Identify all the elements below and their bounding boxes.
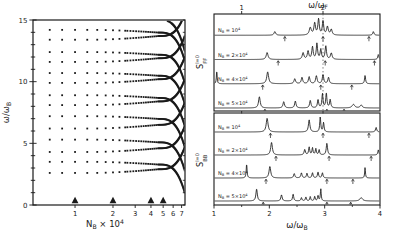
data-dot	[155, 101, 157, 103]
data-dot	[61, 104, 63, 106]
data-dot	[153, 31, 155, 33]
data-dot	[74, 128, 76, 130]
data-dot	[153, 75, 155, 77]
data-dot	[130, 37, 132, 39]
data-dot	[147, 96, 149, 98]
data-dot	[61, 94, 63, 96]
data-dot	[49, 94, 51, 96]
y-tick-label: 0	[23, 202, 27, 210]
data-dot	[74, 39, 76, 41]
data-dot	[149, 141, 151, 143]
data-dot	[124, 116, 126, 118]
data-dot	[143, 59, 145, 61]
data-dot	[124, 171, 126, 173]
data-dot	[143, 53, 145, 55]
data-dot	[112, 95, 114, 97]
data-dot	[149, 117, 151, 119]
data-dot	[74, 139, 76, 141]
data-dot	[49, 72, 51, 74]
data-dot	[96, 82, 98, 84]
top-axis-label: ω/ωF	[308, 1, 327, 11]
resonance-arrow	[261, 85, 264, 90]
resonance-arrow	[328, 156, 331, 161]
data-dot	[140, 170, 142, 172]
data-dot	[132, 30, 134, 32]
data-dot	[130, 116, 132, 118]
data-dot	[145, 125, 147, 127]
data-dot	[151, 169, 153, 171]
x-tick-label: 4	[149, 210, 153, 218]
data-dot	[135, 74, 137, 76]
sff-curves: NB = 104NB = 2×104NB = 4×104NB = 5×104	[214, 18, 379, 114]
data-dot	[151, 58, 153, 60]
nb-marker-triangle	[148, 197, 155, 203]
data-dot	[96, 29, 98, 31]
data-dot	[105, 139, 107, 141]
data-dot	[49, 82, 51, 84]
data-dot	[151, 124, 153, 126]
data-dot	[149, 169, 151, 171]
data-dot	[153, 148, 155, 150]
data-dot	[151, 163, 153, 165]
data-dot	[149, 36, 151, 38]
data-dot	[61, 51, 63, 53]
data-dot	[149, 53, 151, 55]
data-dot	[140, 31, 142, 33]
data-dot	[135, 80, 137, 82]
data-dot	[147, 79, 149, 81]
data-dot	[145, 74, 147, 76]
data-dot	[151, 141, 153, 143]
data-dot	[74, 94, 76, 96]
data-dot	[151, 148, 153, 150]
data-dot	[132, 126, 134, 128]
data-dot	[61, 39, 63, 41]
data-dot	[126, 73, 128, 75]
resonance-arrow	[350, 85, 353, 90]
data-dot	[126, 103, 128, 105]
data-dot	[132, 96, 134, 98]
data-dot	[132, 149, 134, 151]
top-tick-label: 1	[240, 4, 244, 12]
data-dot	[145, 58, 147, 60]
data-dot	[140, 96, 142, 98]
resonance-arrow	[322, 133, 325, 138]
data-dot	[140, 117, 142, 119]
data-dot	[112, 161, 114, 163]
data-dot	[124, 60, 126, 62]
data-dot	[86, 61, 88, 63]
data-dot	[153, 118, 155, 120]
data-dot	[96, 115, 98, 117]
data-dot	[112, 127, 114, 129]
data-dot	[147, 169, 149, 171]
data-dot	[149, 101, 151, 103]
data-dot	[138, 74, 140, 76]
data-dot	[105, 127, 107, 129]
data-dot	[153, 58, 155, 60]
data-dot	[138, 126, 140, 128]
data-dot	[132, 80, 134, 82]
nb-marker-triangle	[160, 197, 167, 203]
data-dot	[74, 72, 76, 74]
data-dot	[147, 36, 149, 38]
data-dot	[155, 32, 157, 34]
data-dot	[96, 161, 98, 163]
data-dot	[147, 101, 149, 103]
data-dot	[86, 104, 88, 106]
data-dot	[96, 128, 98, 130]
data-dot	[155, 118, 157, 120]
resonance-arrow	[265, 179, 268, 184]
data-dot	[143, 170, 145, 172]
data-dot	[126, 38, 128, 40]
data-dot	[132, 52, 134, 54]
data-dot	[153, 163, 155, 165]
data-dot	[153, 141, 155, 143]
data-dot	[105, 51, 107, 53]
y-axis-label: ω/ωB	[1, 102, 12, 123]
data-dot	[140, 80, 142, 82]
data-dot	[96, 94, 98, 96]
data-dot	[119, 127, 121, 129]
data-dot	[96, 72, 98, 74]
data-dot	[155, 169, 157, 171]
data-dot	[126, 162, 128, 164]
data-dot	[112, 38, 114, 40]
